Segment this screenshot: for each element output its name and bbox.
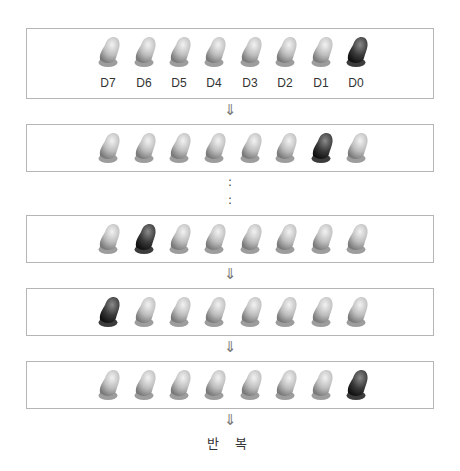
continuation-dots: :: [226, 178, 234, 187]
led-off-icon: [275, 368, 299, 402]
led-off-icon: [240, 368, 264, 402]
down-double-arrow-icon: ⇓: [222, 102, 238, 118]
led-off-icon: [134, 131, 158, 165]
led-row-panel: [26, 361, 434, 409]
led-off-icon: [275, 35, 299, 69]
led-off-icon: [169, 131, 193, 165]
led-off-icon: [98, 222, 122, 256]
led-label: D7: [93, 76, 123, 90]
led-off-icon: [240, 35, 264, 69]
led-off-icon: [204, 222, 228, 256]
led-off-icon: [275, 222, 299, 256]
led-off-icon: [275, 131, 299, 165]
led-off-icon: [240, 131, 264, 165]
led-off-icon: [169, 368, 193, 402]
led-label: D3: [235, 76, 265, 90]
continuation-dots: :: [226, 196, 234, 205]
led-off-icon: [346, 131, 370, 165]
led-off-icon: [169, 295, 193, 329]
led-off-icon: [134, 368, 158, 402]
led-on-icon: [311, 131, 335, 165]
down-double-arrow-icon: ⇓: [222, 339, 238, 355]
led-off-icon: [204, 35, 228, 69]
led-off-icon: [346, 222, 370, 256]
led-off-icon: [204, 131, 228, 165]
led-row-panel: [26, 215, 434, 263]
led-off-icon: [204, 368, 228, 402]
led-row-panel: [26, 288, 434, 336]
led-off-icon: [275, 295, 299, 329]
led-off-icon: [240, 295, 264, 329]
led-off-icon: [169, 222, 193, 256]
led-off-icon: [346, 295, 370, 329]
led-off-icon: [311, 222, 335, 256]
led-off-icon: [311, 35, 335, 69]
led-label: D4: [199, 76, 229, 90]
led-label: D1: [306, 76, 336, 90]
led-row-panel: D7 D6 D5: [26, 28, 434, 99]
led-off-icon: [134, 295, 158, 329]
led-off-icon: [98, 368, 122, 402]
led-off-icon: [240, 222, 264, 256]
led-off-icon: [134, 35, 158, 69]
repeat-label: 반 복: [205, 433, 255, 452]
led-row-panel: [26, 124, 434, 172]
led-label: D0: [341, 76, 371, 90]
led-on-icon: [98, 295, 122, 329]
led-off-icon: [98, 35, 122, 69]
led-label: D6: [129, 76, 159, 90]
led-on-icon: [346, 35, 370, 69]
led-off-icon: [204, 295, 228, 329]
led-off-icon: [311, 368, 335, 402]
down-double-arrow-icon: ⇓: [222, 412, 238, 428]
led-off-icon: [98, 131, 122, 165]
down-double-arrow-icon: ⇓: [222, 266, 238, 282]
led-on-icon: [134, 222, 158, 256]
led-on-icon: [346, 368, 370, 402]
led-label: D2: [270, 76, 300, 90]
led-off-icon: [169, 35, 193, 69]
led-off-icon: [311, 295, 335, 329]
led-label: D5: [164, 76, 194, 90]
